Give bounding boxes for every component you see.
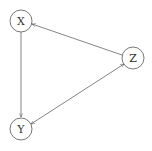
node-y: Y [10,118,32,140]
node-x: X [10,10,32,32]
causal-graph: X Y Z [0,0,152,151]
edge-z-to-x [32,24,122,55]
node-z: Z [122,47,144,69]
edge-y-z-bidirectional [31,64,124,124]
node-x-label: X [17,15,25,28]
node-z-label: Z [129,52,137,65]
node-y-label: Y [16,123,25,136]
